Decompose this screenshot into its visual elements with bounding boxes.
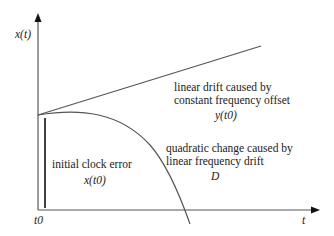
linear-annotation-line2: constant frequency offset <box>174 94 290 107</box>
x-axis-label: t <box>302 214 305 227</box>
y-axis-arrow-icon <box>35 13 42 22</box>
linear-annotation-line1: linear drift caused by <box>174 81 271 94</box>
linear-annotation-symbol: y(t0) <box>215 109 237 122</box>
initial-annotation-line1: initial clock error <box>52 158 132 171</box>
clock-error-diagram: x(t) t t0 linear drift caused by constan… <box>0 0 334 236</box>
initial-annotation-symbol: x(t0) <box>84 174 106 187</box>
quadratic-annotation-symbol: D <box>211 170 219 183</box>
origin-label: t0 <box>34 214 43 227</box>
quadratic-annotation-line1: quadratic change caused by <box>166 142 293 155</box>
quadratic-annotation-line2: linear frequency drift <box>166 155 264 168</box>
x-axis-arrow-icon <box>311 207 320 214</box>
y-axis-label: x(t) <box>15 28 31 41</box>
diagram-graphics <box>0 0 334 236</box>
